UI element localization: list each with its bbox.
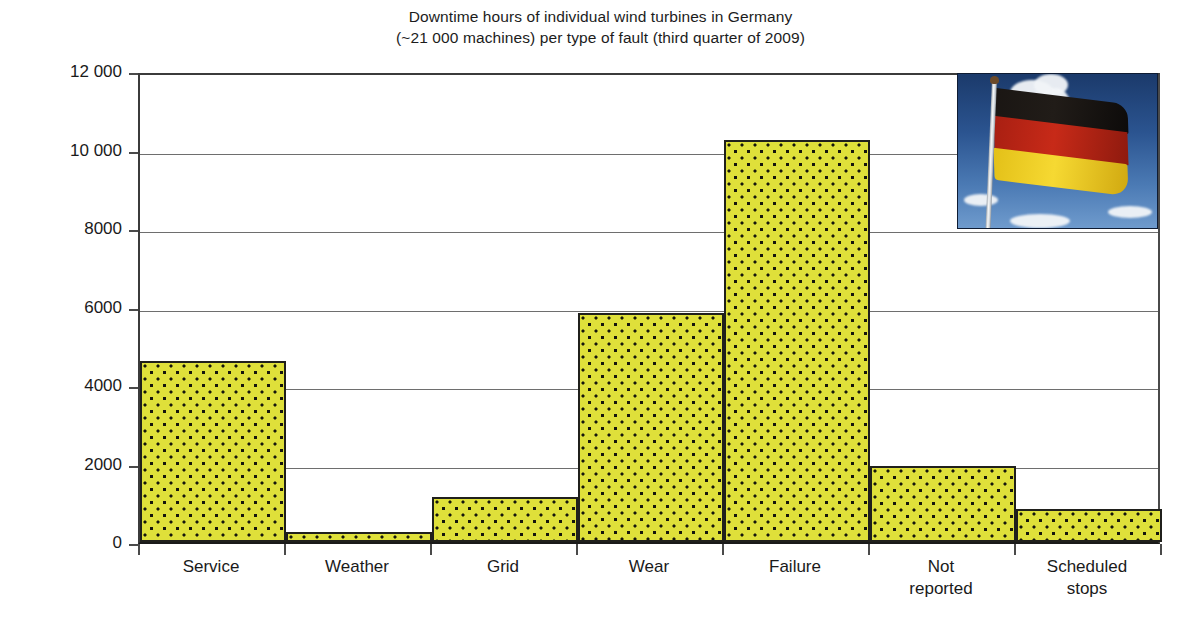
- y-axis-tick-label: 8000: [84, 219, 122, 239]
- chart-title-line-2: (~21 000 machines) per type of fault (th…: [0, 27, 1201, 48]
- chart-page: Downtime hours of individual wind turbin…: [0, 0, 1201, 634]
- x-axis-tick-mark: [1160, 544, 1162, 555]
- y-axis-tick-mark: [129, 544, 138, 546]
- x-axis-label-line: Weather: [284, 556, 430, 578]
- x-axis-label: Service: [138, 556, 284, 578]
- flag-pole-knob: [990, 76, 999, 84]
- y-axis-tick-label: 0: [113, 533, 122, 553]
- x-axis-label: Grid: [430, 556, 576, 578]
- y-axis-tick-label: 2000: [84, 455, 122, 475]
- cloud-shape: [1108, 206, 1152, 218]
- x-axis-label-line: Service: [138, 556, 284, 578]
- y-axis-tick-label: 10 000: [70, 141, 122, 161]
- y-axis-tick-label: 12 000: [70, 62, 122, 82]
- bar: [286, 532, 432, 542]
- bar: [578, 313, 724, 542]
- y-axis-tick-mark: [129, 230, 138, 232]
- bar: [1016, 509, 1162, 542]
- y-axis-tick-mark: [129, 73, 138, 75]
- x-axis-label: Notreported: [868, 556, 1014, 600]
- x-axis-label: Failure: [722, 556, 868, 578]
- chart-title-line-1: Downtime hours of individual wind turbin…: [0, 6, 1201, 27]
- x-axis-tick-mark: [722, 544, 724, 555]
- x-axis-tick-mark: [1014, 544, 1016, 555]
- germany-flag-photo: [957, 73, 1158, 229]
- x-axis-tick-mark: [138, 544, 140, 555]
- cloud-shape: [964, 194, 998, 206]
- gridline: [140, 232, 1158, 233]
- x-axis-label-line: stops: [1014, 578, 1160, 600]
- y-axis-tick-label: 6000: [84, 298, 122, 318]
- x-axis-label-line: Wear: [576, 556, 722, 578]
- y-axis-tick-mark: [129, 309, 138, 311]
- y-axis-tick-label: 4000: [84, 376, 122, 396]
- gridline: [140, 311, 1158, 312]
- bar: [724, 140, 870, 542]
- bar: [870, 466, 1016, 542]
- x-axis-label-line: Scheduled: [1014, 556, 1160, 578]
- x-axis-label-line: Failure: [722, 556, 868, 578]
- x-axis-label: Wear: [576, 556, 722, 578]
- x-axis-label: Weather: [284, 556, 430, 578]
- x-axis-label-line: Not: [868, 556, 1014, 578]
- x-axis-tick-mark: [576, 544, 578, 555]
- bar: [140, 361, 286, 542]
- chart-title: Downtime hours of individual wind turbin…: [0, 6, 1201, 48]
- cloud-shape: [1010, 214, 1070, 228]
- x-axis-tick-mark: [430, 544, 432, 555]
- x-axis-label-line: reported: [868, 578, 1014, 600]
- x-axis-label: Scheduledstops: [1014, 556, 1160, 600]
- bar: [432, 497, 578, 542]
- y-axis-tick-mark: [129, 466, 138, 468]
- y-axis-tick-mark: [129, 152, 138, 154]
- x-axis-tick-mark: [284, 544, 286, 555]
- x-axis-tick-mark: [868, 544, 870, 555]
- x-axis-label-line: Grid: [430, 556, 576, 578]
- y-axis-tick-mark: [129, 387, 138, 389]
